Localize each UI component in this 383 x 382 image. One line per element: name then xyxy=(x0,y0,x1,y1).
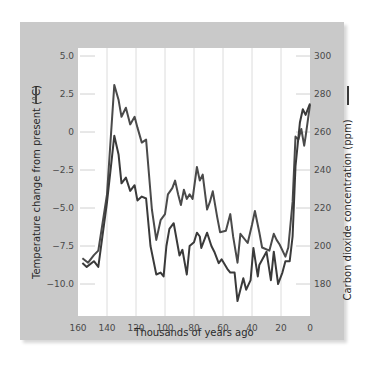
y-left-tick-label: −7.5 xyxy=(52,241,74,251)
y-right-tick-label: 240 xyxy=(314,165,331,175)
y-axis-right-label-group: Carbon dioxide concentration (ppm) xyxy=(342,119,353,300)
y-left-tick-label: −5.0 xyxy=(52,203,74,213)
y-right-tick-label: 300 xyxy=(314,51,331,61)
y-right-tick-label: 280 xyxy=(314,89,331,99)
x-tick-label: 0 xyxy=(307,323,313,333)
y-left-tick-label: 5.0 xyxy=(60,51,75,61)
y-right-tick-label: 220 xyxy=(314,203,331,213)
x-tick-label: 160 xyxy=(69,323,86,333)
y-left-tick-label: −10.0 xyxy=(46,279,74,289)
y-left-tick-label: 0 xyxy=(68,127,74,137)
y-axis-left-label: Temperature change from present (°C) xyxy=(31,85,42,280)
x-tick-label: 140 xyxy=(98,323,115,333)
y-right-tick-label: 260 xyxy=(314,127,331,137)
y-axis-left-label-group: Temperature change from present (°C) xyxy=(31,85,42,280)
y-left-tick-label: 2.5 xyxy=(60,89,74,99)
y-left-tick-label: −2.5 xyxy=(52,165,74,175)
y-axis-right-label: Carbon dioxide concentration (ppm) xyxy=(342,119,353,300)
x-tick-label: 20 xyxy=(275,323,287,333)
x-axis-label: Thousands of years ago xyxy=(133,327,253,338)
chart: 5.02.50−2.5−5.0−7.5−10.0 300280260240220… xyxy=(0,0,383,382)
y-right-tick-label: 180 xyxy=(314,279,331,289)
y-right-tick-label: 200 xyxy=(314,241,331,251)
